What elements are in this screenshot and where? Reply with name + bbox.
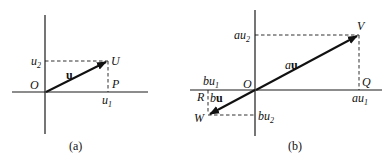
vector-bu-label: bu — [210, 91, 223, 105]
bu2-label: bu2 — [258, 109, 274, 125]
vector-au-label: au — [285, 58, 298, 72]
bu1-label: bu1 — [203, 74, 219, 90]
point-r-label: R — [196, 90, 205, 104]
vector-diagram: O U P u u2 u1 (a) O V Q R W au bu au2 au… — [0, 0, 389, 159]
figure-a: O U P u u2 u1 (a) — [12, 15, 148, 153]
vector-u-label: u — [66, 68, 73, 82]
u2-sub: 2 — [37, 61, 41, 70]
point-w-label: W — [194, 111, 205, 125]
bu1-base: bu — [203, 74, 215, 88]
point-q-label: Q — [362, 75, 371, 89]
bu1-sub: 1 — [215, 81, 219, 90]
point-v-label: V — [357, 19, 366, 33]
origin-label-a: O — [30, 78, 39, 92]
au2-sub: 2 — [246, 35, 250, 44]
point-p-label: P — [111, 77, 120, 91]
figure-b: O V Q R W au bu au2 au1 bu1 bu2 (b) — [190, 10, 382, 153]
au-vec: u — [291, 58, 298, 72]
u1-label: u1 — [102, 93, 112, 109]
au1-base: au — [352, 91, 364, 105]
point-u-label: U — [111, 54, 121, 68]
u1-sub: 1 — [108, 100, 112, 109]
au1-sub: 1 — [364, 98, 368, 107]
au1-label: au1 — [352, 91, 368, 107]
u2-label: u2 — [31, 54, 41, 70]
origin-label-b: O — [243, 77, 252, 91]
bu2-base: bu — [258, 109, 270, 123]
vector-au — [256, 36, 357, 90]
au2-base: au — [234, 28, 246, 42]
caption-a: (a) — [69, 139, 82, 153]
caption-b: (b) — [288, 139, 302, 153]
vector-u — [46, 62, 106, 92]
bu-vec: u — [216, 91, 223, 105]
au2-label: au2 — [234, 28, 250, 44]
bu2-sub: 2 — [270, 116, 274, 125]
